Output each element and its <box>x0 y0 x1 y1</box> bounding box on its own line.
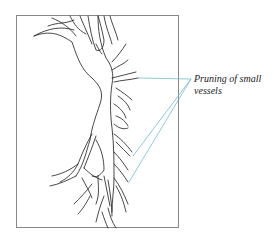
annotation-line-2: vessels <box>194 85 274 97</box>
pulmonary-vessel-illustration <box>0 0 274 249</box>
leader-line-top <box>138 78 191 79</box>
leader-line-bottom <box>129 79 191 182</box>
annotation-label: Pruning of small vessels <box>194 73 274 97</box>
vessel-tree <box>34 16 138 228</box>
leader-lines <box>129 78 191 182</box>
vessel-diagram: Pruning of small vessels <box>0 0 274 249</box>
leader-line-middle <box>133 79 191 156</box>
annotation-line-1: Pruning of small <box>194 73 274 85</box>
